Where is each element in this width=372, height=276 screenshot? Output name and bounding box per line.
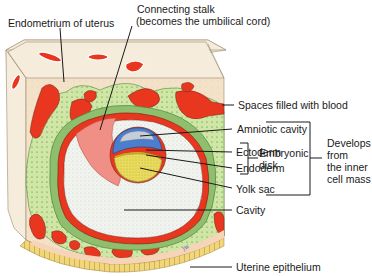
embryonic-disk-line2: disk bbox=[259, 159, 278, 171]
label-cavity: Cavity bbox=[236, 204, 265, 216]
develops-line3: the inner bbox=[327, 161, 371, 173]
label-spaces-blood: Spaces filled with blood bbox=[238, 99, 348, 111]
label-develops-from-inner-cell-mass: Develops from the inner cell mass bbox=[327, 137, 371, 185]
label-yolk-sac: Yolk sac bbox=[236, 183, 275, 195]
develops-line4: cell mass bbox=[327, 173, 371, 185]
embryonic-disk-line1: Embryonic bbox=[259, 147, 309, 159]
label-connecting-stalk: Connecting stalk bbox=[137, 3, 215, 15]
label-endometrium: Endometrium of uterus bbox=[8, 17, 114, 29]
label-amniotic-cavity: Amniotic cavity bbox=[237, 123, 307, 135]
label-uterine-epithelium: Uterine epithelium bbox=[236, 261, 321, 273]
label-connecting-stalk-note: (becomes the umbilical cord) bbox=[136, 15, 270, 27]
develops-line1: Develops bbox=[327, 137, 371, 149]
label-embryonic-disk: Embryonic disk bbox=[259, 147, 309, 171]
develops-line2: from bbox=[327, 149, 371, 161]
blastocyst-diagram: JW bbox=[0, 0, 372, 276]
